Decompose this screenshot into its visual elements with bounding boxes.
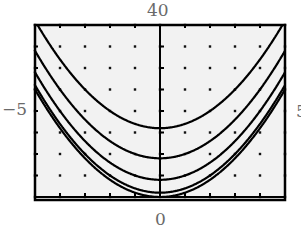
grid-dot	[134, 110, 136, 112]
grid-dot	[184, 45, 186, 47]
grid-dot	[209, 131, 211, 133]
grid-dot	[109, 88, 111, 90]
grid-dot	[209, 88, 211, 90]
grid-dot	[209, 45, 211, 47]
grid-dot	[84, 174, 86, 176]
grid-dot	[259, 67, 261, 69]
grid-dot	[84, 131, 86, 133]
grid-dot	[234, 67, 236, 69]
grid-dot	[259, 131, 261, 133]
grid-dot	[234, 131, 236, 133]
grid-dot	[184, 88, 186, 90]
grid-dot	[259, 174, 261, 176]
grid-dot	[184, 110, 186, 112]
grid-dot	[59, 174, 61, 176]
grid-dot	[59, 153, 61, 155]
grid-dot	[184, 67, 186, 69]
graph-window	[0, 0, 301, 237]
grid-dot	[59, 67, 61, 69]
grid-dot	[59, 45, 61, 47]
grid-dot	[234, 110, 236, 112]
grid-dot	[184, 131, 186, 133]
grid-dot	[234, 174, 236, 176]
grid-dot	[134, 88, 136, 90]
grid-dot	[209, 153, 211, 155]
grid-dot	[134, 131, 136, 133]
grid-dot	[84, 110, 86, 112]
grid-dot	[109, 153, 111, 155]
grid-dot	[109, 131, 111, 133]
grid-dot	[134, 45, 136, 47]
grid-dot	[259, 45, 261, 47]
grid-dot	[109, 67, 111, 69]
grid-dot	[234, 45, 236, 47]
grid-dot	[109, 45, 111, 47]
grid-dot	[59, 131, 61, 133]
grid-dot	[209, 67, 211, 69]
grid-dot	[259, 153, 261, 155]
grid-dot	[84, 67, 86, 69]
grid-dot	[84, 45, 86, 47]
grid-dot	[134, 67, 136, 69]
